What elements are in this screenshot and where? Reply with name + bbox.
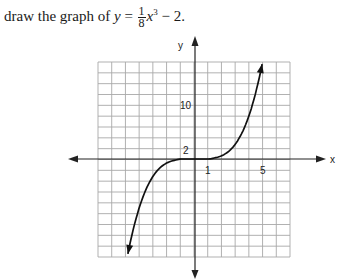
x-tick-label-5: 5 bbox=[260, 165, 266, 176]
y-tick-label-2: 2 bbox=[183, 145, 189, 156]
x-axis-left-arrow-icon bbox=[68, 156, 78, 163]
graph: x y 1 5 2 10 bbox=[0, 0, 338, 279]
y-axis-down-arrow-icon bbox=[192, 270, 199, 279]
y-tick-label-10: 10 bbox=[180, 100, 192, 111]
y-axis-up-arrow-icon bbox=[192, 36, 199, 46]
x-axis-label: x bbox=[330, 154, 335, 165]
x-axis-right-arrow-icon bbox=[316, 156, 326, 163]
y-axis-label: y bbox=[178, 40, 183, 51]
x-tick-label-1: 1 bbox=[205, 165, 211, 176]
